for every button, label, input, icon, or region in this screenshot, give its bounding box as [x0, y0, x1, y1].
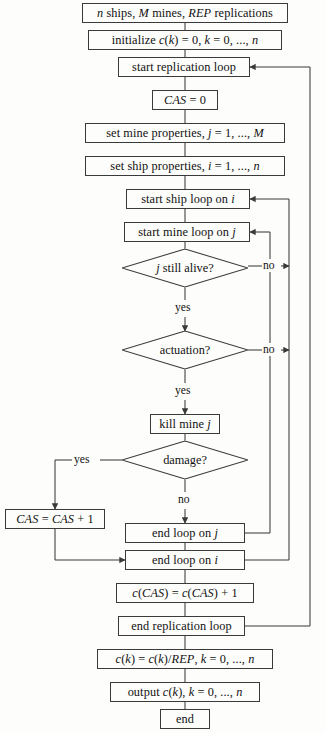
- node-start-replication-loop: start replication loop: [118, 57, 250, 77]
- node-inputs-label: n ships, M mines, REP replications: [97, 6, 273, 21]
- node-start-mine-loop: start mine loop on j: [124, 222, 250, 242]
- node-set-mine-properties: set mine properties, j = 1, ..., M: [85, 123, 285, 143]
- node-end-loop-i-label: end loop on i: [152, 553, 218, 568]
- node-initialize-label: initialize c(k) = 0, k = 0, ..., n: [112, 33, 258, 48]
- node-end-loop-j: end loop on j: [125, 523, 245, 543]
- edge-label-actuation-yes: yes: [174, 384, 191, 397]
- node-cas-increment: CAS = CAS + 1: [5, 509, 105, 529]
- node-average-label: c(k) = c(k)/REP, k = 0, ..., n: [116, 652, 255, 667]
- node-end-label: end: [176, 712, 194, 727]
- node-end-replication-loop-label: end replication loop: [131, 619, 231, 634]
- node-end-replication-loop: end replication loop: [118, 616, 245, 636]
- node-cas-zero: CAS = 0: [152, 90, 218, 110]
- node-output: output c(k), k = 0, ..., n: [110, 682, 260, 702]
- edge-label-still-alive-no: no: [262, 259, 276, 272]
- node-end: end: [160, 709, 210, 729]
- node-actuation-decision: actuation?: [122, 331, 248, 369]
- node-cas-increment-label: CAS = CAS + 1: [16, 512, 93, 527]
- node-damage-decision: damage?: [122, 441, 248, 479]
- node-initialize: initialize c(k) = 0, k = 0, ..., n: [88, 30, 282, 50]
- node-start-ship-loop: start ship loop on i: [126, 189, 250, 209]
- node-set-ship-properties-label: set ship properties, i = 1, ..., n: [110, 159, 259, 174]
- node-set-ship-properties: set ship properties, i = 1, ..., n: [85, 156, 285, 176]
- node-inputs: n ships, M mines, REP replications: [82, 3, 288, 23]
- node-start-ship-loop-label: start ship loop on i: [141, 192, 235, 207]
- node-count-cas-label: c(CAS) = c(CAS) + 1: [132, 586, 237, 601]
- node-end-loop-j-label: end loop on j: [152, 526, 218, 541]
- edge-label-damage-no: no: [177, 493, 191, 506]
- node-still-alive-label: j still alive?: [156, 261, 213, 276]
- node-start-replication-loop-label: start replication loop: [132, 60, 236, 75]
- edge-label-still-alive-yes: yes: [174, 301, 191, 314]
- node-set-mine-properties-label: set mine properties, j = 1, ..., M: [106, 126, 264, 141]
- node-kill-mine-label: kill mine j: [159, 417, 211, 432]
- node-end-loop-i: end loop on i: [125, 550, 245, 570]
- node-count-cas: c(CAS) = c(CAS) + 1: [116, 583, 254, 603]
- node-output-label: output c(k), k = 0, ..., n: [128, 685, 243, 700]
- node-kill-mine: kill mine j: [150, 414, 220, 434]
- node-still-alive-decision: j still alive?: [122, 249, 248, 287]
- node-average: c(k) = c(k)/REP, k = 0, ..., n: [97, 649, 273, 669]
- node-damage-label: damage?: [163, 453, 207, 468]
- node-actuation-label: actuation?: [160, 343, 211, 358]
- edge-label-actuation-no: no: [262, 343, 276, 356]
- node-cas-zero-label: CAS = 0: [164, 93, 206, 108]
- node-start-mine-loop-label: start mine loop on j: [138, 225, 236, 240]
- edge-label-damage-yes: yes: [73, 453, 90, 466]
